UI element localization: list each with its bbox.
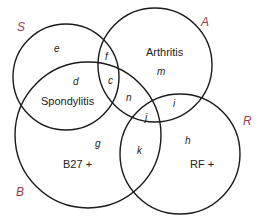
name-b27: B27 + [63,158,92,170]
region-n: n [126,92,132,103]
region-g: g [95,138,101,149]
set-label-r: R [243,114,252,128]
name-arthritis: Arthritis [146,46,184,58]
name-spondylitis: Spondylitis [41,95,95,107]
set-label-b: B [16,185,24,199]
region-h: h [185,135,191,146]
region-d: d [73,76,79,87]
region-e: e [54,43,60,54]
venn-diagram: S A R B Spondylitis Arthritis B27 + RF +… [0,0,268,222]
region-c: c [108,75,113,86]
circle-b-b27 [15,62,161,208]
region-m: m [157,66,165,77]
region-i: i [173,98,176,109]
region-k: k [137,145,143,156]
name-rf: RF + [190,158,214,170]
region-f: f [105,51,109,62]
set-label-a: A [200,15,209,29]
set-label-s: S [17,20,25,34]
